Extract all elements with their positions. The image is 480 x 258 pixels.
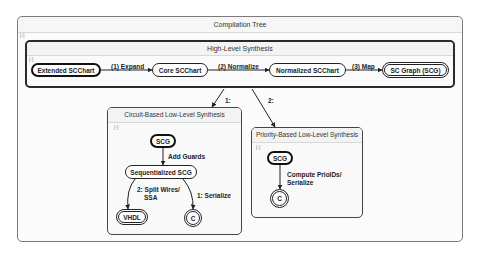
collapse-toggle-high-level[interactable]: [-] (29, 56, 33, 62)
collapse-toggle-outer[interactable]: [-] (20, 32, 24, 38)
node-vhdl[interactable]: VHDL (116, 209, 148, 225)
edge-label-split-wires: 2: Split Wires/ (137, 186, 180, 194)
node-priority-c[interactable]: C (270, 189, 289, 208)
priority-based-synthesis-title: Priority-Based Low-Level Synthesis (252, 128, 362, 143)
node-priority-scg[interactable]: SCG (267, 151, 293, 165)
node-circuit-c[interactable]: C (184, 209, 202, 227)
node-extended-scchart[interactable]: Extended SCChart (31, 63, 101, 77)
edge-label-ssa: SSA (144, 194, 157, 202)
edge-label-serialize-priority: Serialize (287, 179, 313, 187)
collapse-toggle-circuit[interactable]: [-] (114, 124, 118, 130)
high-level-synthesis-title: High-Level Synthesis (27, 42, 453, 56)
node-sc-graph[interactable]: SC Graph (SCG) (382, 62, 449, 78)
node-normalized-scchart[interactable]: Normalized SCChart (269, 63, 346, 77)
collapse-toggle-priority[interactable]: [-] (256, 144, 260, 150)
branch-label-circuit: 1: (225, 97, 231, 105)
edge-label-add-guards: Add Guards (168, 153, 205, 161)
edge-label-serialize: 1: Serialize (197, 192, 231, 200)
edge-label-map: (3) Map (352, 63, 375, 71)
edge-label-normalize: (2) Normalize (218, 63, 259, 71)
branch-label-priority: 2: (268, 97, 274, 105)
node-sequentialized-scg[interactable]: Sequentialized SCG (125, 165, 197, 179)
circuit-based-synthesis-title: Circuit-Based Low-Level Synthesis (108, 108, 241, 123)
edge-label-compute-prioids: Compute PrioIDs/ (287, 171, 342, 179)
node-circuit-scg[interactable]: SCG (150, 134, 176, 148)
compilation-tree-title: Compilation Tree (18, 17, 462, 33)
node-core-scchart[interactable]: Core SCChart (152, 63, 208, 77)
edge-label-expand: (1) Expand (111, 63, 144, 71)
